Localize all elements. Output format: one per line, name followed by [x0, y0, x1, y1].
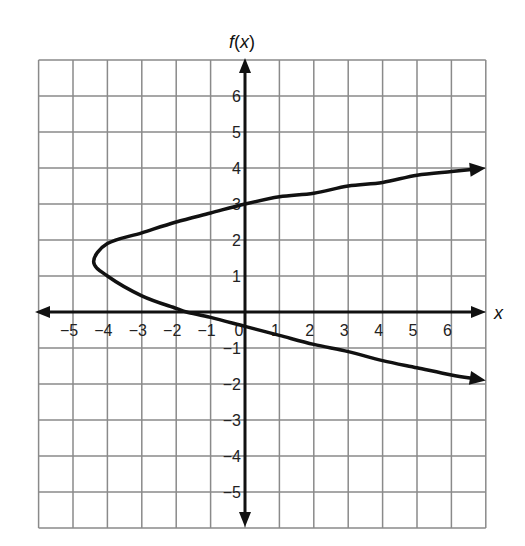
- coordinate-plane-chart: −5−4−3−2−10123456654321−1−2−3−4−5 f(x) x: [0, 0, 525, 546]
- x-tick-label: −4: [94, 322, 112, 339]
- y-tick-label: −2: [223, 376, 241, 393]
- y-tick-label: 1: [232, 268, 241, 285]
- y-tick-label: 2: [232, 232, 241, 249]
- x-axis-left-arrow-icon: [35, 306, 50, 318]
- y-axis-down-arrow-icon: [239, 512, 251, 527]
- y-tick-label: −4: [223, 448, 241, 465]
- curve-lower-arrow-icon: [469, 371, 486, 385]
- y-tick-label: −5: [223, 484, 241, 501]
- x-axis-right-arrow-icon: [471, 306, 486, 318]
- curve-upper-arrow-icon: [469, 163, 486, 177]
- x-tick-label: 4: [374, 322, 383, 339]
- y-axis-title: f(x): [229, 32, 255, 52]
- x-tick-label: 2: [305, 322, 314, 339]
- x-tick-label: 6: [443, 322, 452, 339]
- y-tick-label: 6: [232, 88, 241, 105]
- x-tick-label: 3: [340, 322, 349, 339]
- y-tick-label: −1: [223, 340, 241, 357]
- x-tick-label: 5: [409, 322, 418, 339]
- y-tick-label: 4: [232, 160, 241, 177]
- y-tick-label: 5: [232, 124, 241, 141]
- y-tick-label: −3: [223, 412, 241, 429]
- tick-labels: −5−4−3−2−10123456654321−1−2−3−4−5: [60, 88, 452, 501]
- x-tick-label: −5: [60, 322, 78, 339]
- grid-lines: [39, 60, 486, 528]
- x-tick-label: −3: [129, 322, 147, 339]
- x-tick-label: −2: [163, 322, 181, 339]
- x-axis-title: x: [493, 303, 504, 323]
- x-tick-label: −1: [197, 322, 215, 339]
